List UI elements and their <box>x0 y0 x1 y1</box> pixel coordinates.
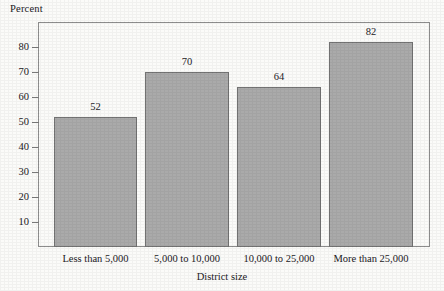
y-axis-title: Percent <box>10 3 43 14</box>
y-tick-label: 20 <box>0 192 29 203</box>
x-category-label: Less than 5,000 <box>46 254 145 265</box>
y-tick-label: 10 <box>0 217 29 228</box>
y-tick-label: 80 <box>0 42 29 53</box>
y-tick-label: 30 <box>0 167 29 178</box>
bar <box>54 117 137 247</box>
bar-chart-figure: Percent 1020304050607080 Less than 5,000… <box>0 0 444 291</box>
y-tick-label: 40 <box>0 142 29 153</box>
y-tick-mark <box>32 147 39 148</box>
bar-value-label: 82 <box>329 27 413 38</box>
x-category-label: 10,000 to 25,000 <box>229 254 329 265</box>
x-category-label: More than 25,000 <box>321 254 421 265</box>
x-category-label: 5,000 to 10,000 <box>137 254 237 265</box>
bar-value-label: 70 <box>145 57 229 68</box>
y-tick-mark <box>32 97 39 98</box>
y-tick-label: 60 <box>0 92 29 103</box>
y-tick-label: 50 <box>0 117 29 128</box>
y-tick-mark <box>32 122 39 123</box>
bar <box>145 72 229 247</box>
bar <box>237 87 321 247</box>
y-tick-mark <box>32 197 39 198</box>
plot-area <box>39 23 429 247</box>
y-tick-label: 70 <box>0 67 29 78</box>
y-tick-mark <box>32 222 39 223</box>
x-axis-title: District size <box>0 272 444 283</box>
y-tick-mark <box>32 47 39 48</box>
bar <box>329 42 413 247</box>
bar-value-label: 52 <box>54 102 137 113</box>
y-tick-mark <box>32 72 39 73</box>
y-tick-mark <box>32 172 39 173</box>
bar-value-label: 64 <box>237 72 321 83</box>
